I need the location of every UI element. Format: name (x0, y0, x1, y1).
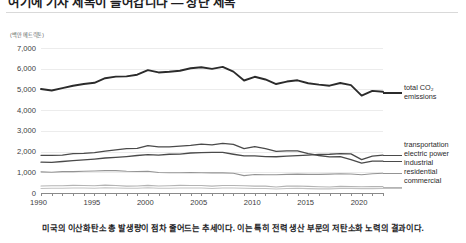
x-axis-tick (201, 193, 202, 196)
x-axis-tick (362, 193, 363, 196)
x-axis-tick (330, 193, 331, 196)
x-axis-tick (372, 193, 373, 196)
x-tick-label: 2015 (297, 198, 314, 207)
x-axis-tick (159, 193, 160, 196)
x-axis-tick (84, 193, 85, 196)
legend-item-total-co-emissions: total CO₂emissions (404, 84, 436, 101)
x-tick-label: 2010 (244, 198, 261, 207)
x-axis-tick (308, 193, 309, 196)
x-axis-tick (276, 193, 277, 196)
x-axis-tick (105, 193, 106, 196)
y-tick-label: 2,000 (2, 147, 36, 156)
series-line-residential (41, 185, 383, 187)
legend-connector (383, 188, 402, 189)
x-axis-tick (223, 193, 224, 196)
x-axis-tick (265, 193, 266, 196)
x-axis-tick (62, 193, 63, 196)
series-line-commercial (41, 188, 383, 189)
series-line-total-co-emissions (41, 67, 383, 96)
x-axis-tick (319, 193, 320, 196)
legend-connector (383, 155, 402, 156)
legend-item-commercial: commercial (404, 177, 441, 186)
x-axis-tick (383, 193, 384, 196)
y-tick-label: 4,000 (2, 106, 36, 115)
x-axis-tick (41, 193, 42, 196)
x-axis-tick (298, 193, 299, 196)
x-tick-label: 1990 (30, 198, 47, 207)
y-tick-label: 1,000 (2, 168, 36, 177)
x-axis-tick (169, 193, 170, 196)
y-tick-label: 6,000 (2, 64, 36, 73)
chart-page: 여기에 기사 제목이 들어갑니다 — 상단 제목 (백만 메트릭톤) 7,000… (0, 0, 466, 243)
y-tick-label: 5,000 (2, 85, 36, 94)
y-tick-label: 3,000 (2, 126, 36, 135)
legend-connector (383, 173, 402, 174)
series-line-electric-power (41, 143, 383, 163)
legend-connector (383, 92, 402, 94)
x-tick-label: 1995 (83, 198, 100, 207)
x-axis-tick (180, 193, 181, 196)
x-axis-tick (244, 193, 245, 196)
x-tick-label: 2005 (190, 198, 207, 207)
y-tick-label: 0 (2, 189, 36, 198)
x-axis-tick (340, 193, 341, 196)
x-axis-tick (233, 193, 234, 196)
x-axis-tick (116, 193, 117, 196)
y-axis-unit-label: (백만 메트릭톤) (10, 31, 44, 38)
series-line-industrial (41, 171, 383, 176)
x-axis-tick (255, 193, 256, 196)
x-axis-tick (127, 193, 128, 196)
header-divider (6, 12, 458, 13)
chart-series-lines (41, 48, 383, 193)
chart-caption: 미국의 이산화탄소 총 발생량이 점차 줄어드는 추세이다. 이는 특히 전력 … (0, 221, 466, 233)
x-axis-tick (94, 193, 95, 196)
legend-connector (383, 161, 402, 162)
x-axis-tick (52, 193, 53, 196)
y-tick-label: 7,000 (2, 44, 36, 53)
x-axis-tick (73, 193, 74, 196)
page-title: 여기에 기사 제목이 들어갑니다 — 상단 제목 (8, 0, 236, 10)
x-tick-label: 2000 (137, 198, 154, 207)
x-axis-tick (148, 193, 149, 196)
x-tick-label: 2020 (351, 198, 368, 207)
x-axis-tick (137, 193, 138, 196)
x-axis-tick (287, 193, 288, 196)
x-axis-tick (191, 193, 192, 196)
x-axis-tick (212, 193, 213, 196)
x-axis-tick (351, 193, 352, 196)
